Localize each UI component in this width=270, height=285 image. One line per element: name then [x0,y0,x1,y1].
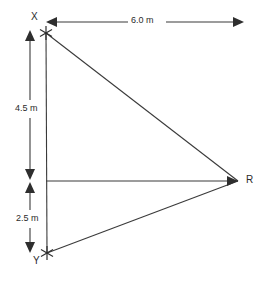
arrow-head-right [233,17,244,27]
diagram-canvas [0,0,270,285]
arrow-head-down-bottom [25,242,35,253]
arrow-head-up-mid [25,182,35,193]
star-marker-y [41,246,53,260]
point-label-y: Y [33,256,40,266]
arrow-head-down-mid [25,169,35,180]
segment-x-r [46,33,238,181]
point-label-r: R [246,175,253,185]
dimension-label-lower-vertical: 2.5 m [15,214,40,223]
star-marker-x [40,26,52,40]
segment-y-r [47,181,238,253]
arrow-head-left [46,17,57,27]
arrow-head-up-top [25,30,35,41]
segment-x-y [46,33,47,253]
dimension-label-upper-vertical: 4.5 m [14,104,39,113]
dimension-label-horizontal: 6.0 m [130,16,155,25]
vertex-marker-r [227,176,238,186]
geometry-diagram: X Y R 6.0 m 4.5 m 2.5 m [0,0,270,285]
point-label-x: X [31,12,38,22]
